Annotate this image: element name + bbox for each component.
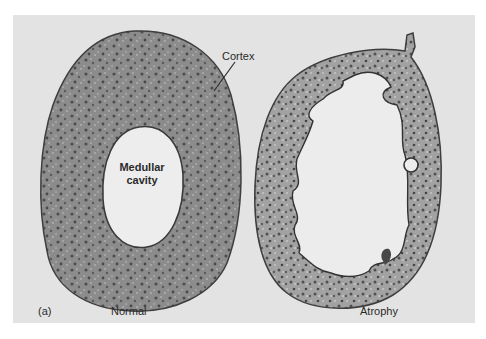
atrophy-caption: Atrophy [360, 306, 398, 317]
cortex-label: Cortex [222, 51, 254, 62]
medullar-cavity-label: Medullar cavity [112, 161, 172, 187]
medullar-cavity-label-line2: cavity [112, 174, 172, 187]
panel-letter: (a) [38, 306, 51, 317]
normal-caption: Normal [111, 306, 146, 317]
atrophy-bone-section [255, 33, 441, 308]
vascular-canal [404, 158, 418, 172]
medullar-cavity-label-line1: Medullar [112, 161, 172, 174]
